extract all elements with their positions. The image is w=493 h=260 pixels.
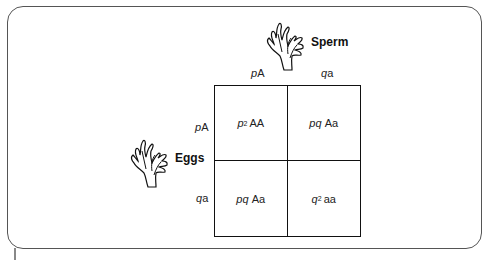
column-header-pA: pA <box>251 67 264 79</box>
cell-Aa-bottom: pq Aa <box>215 161 288 236</box>
row-header-pA: pA <box>195 121 208 133</box>
cell-Aa-top: pq Aa <box>288 86 361 161</box>
eggs-label: Eggs <box>175 151 204 165</box>
row-header-qa: qa <box>196 192 208 204</box>
cell-AA: p2AA <box>215 86 288 161</box>
punnett-square: p2AA pq Aa pq Aa q2aa <box>214 85 361 237</box>
coral-icon <box>264 18 314 72</box>
sperm-label: Sperm <box>311 35 348 49</box>
cell-aa: q2aa <box>288 161 361 236</box>
frame-tick <box>14 248 16 260</box>
column-header-qa: qa <box>321 67 333 79</box>
coral-icon <box>128 135 178 189</box>
